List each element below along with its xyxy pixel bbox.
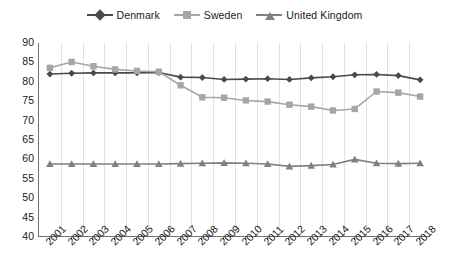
- sweden-legend-swatch: [174, 10, 200, 20]
- data-point-marker: [330, 73, 337, 80]
- data-point-marker: [351, 156, 359, 163]
- data-point-marker: [68, 59, 74, 65]
- denmark-legend-swatch: [87, 10, 113, 20]
- data-point-marker: [134, 68, 140, 74]
- line-chart: Denmark Sweden United Kingdom 4045505560…: [0, 0, 449, 276]
- data-point-marker: [177, 82, 183, 88]
- data-point-marker: [46, 71, 53, 78]
- series-united-kingdom: [46, 156, 424, 170]
- data-point-marker: [351, 71, 358, 78]
- y-axis-tick-label: 75: [10, 94, 34, 106]
- series-layer: [39, 43, 431, 237]
- data-point-marker: [308, 75, 315, 82]
- y-axis-tick-label: 90: [10, 36, 34, 48]
- legend-item-united-kingdom[interactable]: United Kingdom: [256, 9, 362, 21]
- data-point-marker: [286, 101, 292, 107]
- data-point-marker: [395, 72, 402, 79]
- data-point-marker: [156, 69, 162, 75]
- series-denmark: [46, 69, 423, 83]
- data-point-marker: [308, 103, 314, 109]
- data-point-marker: [221, 95, 227, 101]
- y-axis-tick-label: 80: [10, 75, 34, 87]
- legend-item-sweden[interactable]: Sweden: [174, 9, 243, 21]
- series-line: [50, 62, 420, 111]
- data-point-marker: [47, 65, 53, 71]
- data-point-marker: [90, 69, 97, 76]
- data-point-marker: [286, 76, 293, 83]
- data-point-marker: [373, 88, 379, 94]
- data-point-marker: [264, 75, 271, 82]
- data-point-marker: [352, 106, 358, 112]
- data-point-marker: [199, 94, 205, 100]
- data-point-marker: [417, 93, 423, 99]
- data-point-marker: [242, 76, 249, 83]
- y-axis-tick-label: 50: [10, 191, 34, 203]
- y-axis-tick-label: 45: [10, 211, 34, 223]
- data-point-marker: [199, 74, 206, 81]
- y-axis-tick-label: 55: [10, 172, 34, 184]
- y-axis-tick-label: 70: [10, 114, 34, 126]
- data-point-marker: [330, 107, 336, 113]
- plot-area: [38, 43, 430, 237]
- series-line: [50, 159, 420, 166]
- data-point-marker: [90, 63, 96, 69]
- series-sweden: [47, 59, 424, 114]
- y-axis-tick-label: 40: [10, 230, 34, 242]
- data-point-marker: [373, 71, 380, 78]
- series-line: [50, 72, 420, 79]
- y-axis-tick-label: 85: [10, 55, 34, 67]
- data-point-marker: [68, 70, 75, 77]
- data-point-marker: [112, 66, 118, 72]
- data-point-marker: [417, 76, 424, 83]
- chart-legend: Denmark Sweden United Kingdom: [0, 6, 449, 24]
- legend-label-united-kingdom: United Kingdom: [286, 9, 362, 21]
- uk-legend-swatch: [256, 10, 282, 20]
- data-point-marker: [243, 97, 249, 103]
- data-point-marker: [395, 89, 401, 95]
- y-axis-tick-label: 60: [10, 152, 34, 164]
- y-axis-labels: 4045505560657075808590: [4, 0, 34, 276]
- y-axis-tick-label: 65: [10, 133, 34, 145]
- legend-item-denmark[interactable]: Denmark: [87, 9, 160, 21]
- legend-label-sweden: Sweden: [204, 9, 243, 21]
- x-axis-labels: 2001200220032004200520062007200820092010…: [38, 237, 430, 276]
- data-point-marker: [221, 76, 228, 83]
- legend-label-denmark: Denmark: [117, 9, 160, 21]
- data-point-marker: [264, 98, 270, 104]
- data-point-marker: [177, 74, 184, 81]
